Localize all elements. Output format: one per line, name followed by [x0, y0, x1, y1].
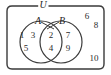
element-a-only: 5 — [24, 44, 29, 53]
universal-set-label: U — [38, 0, 47, 10]
element-outside: 6 — [85, 12, 90, 21]
element-intersection: 2 — [49, 31, 54, 40]
set-a-label: A — [35, 16, 41, 26]
element-b-only: 7 — [66, 31, 71, 40]
element-outside: 8 — [94, 21, 99, 30]
venn-diagram-graphic — [0, 0, 111, 75]
element-intersection: 4 — [49, 44, 54, 53]
set-b-label: B — [59, 16, 65, 26]
element-a-only: 3 — [31, 31, 36, 40]
element-b-only: 9 — [66, 44, 71, 53]
venn-diagram-figure: U A B 1 3 5 2 4 7 9 6 8 10 — [0, 0, 111, 75]
element-a-only: 1 — [20, 31, 25, 40]
set-b-circle — [40, 21, 82, 63]
element-outside: 10 — [90, 54, 99, 63]
